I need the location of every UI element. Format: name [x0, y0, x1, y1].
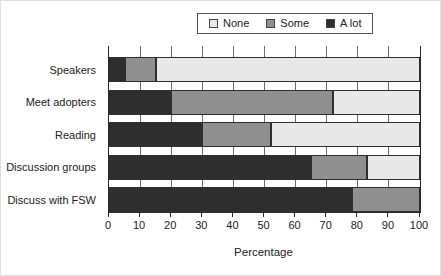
- bar-row: [109, 122, 420, 147]
- bar-segment-some: [171, 90, 333, 115]
- bar-segment-a-lot: [109, 155, 311, 180]
- x-tick-mark: [232, 213, 233, 217]
- x-tick-mark: [419, 213, 420, 217]
- category-label: Discussion groups: [6, 162, 96, 173]
- legend-label: A lot: [340, 18, 361, 29]
- x-tick-label: 50: [257, 220, 269, 231]
- x-tick-label: 90: [382, 220, 394, 231]
- x-tick-mark: [170, 213, 171, 217]
- legend: NoneSomeA lot: [197, 13, 373, 34]
- x-tick-mark: [294, 213, 295, 217]
- legend-label: None: [223, 18, 249, 29]
- bar-segment-a-lot: [109, 122, 202, 147]
- legend-item-some: Some: [266, 18, 309, 29]
- legend-item-none: None: [209, 18, 249, 29]
- category-axis-labels: SpeakersMeet adoptersReadingDiscussion g…: [1, 46, 102, 212]
- x-tick-label: 10: [133, 220, 145, 231]
- bar-row: [109, 155, 420, 180]
- x-tick-label: 80: [351, 220, 363, 231]
- bar-segment-none: [333, 90, 420, 115]
- x-tick-mark: [201, 213, 202, 217]
- bar-row: [109, 57, 420, 82]
- x-axis: 0102030405060708090100: [108, 213, 419, 239]
- bar-segment-none: [271, 122, 420, 147]
- x-tick-label: 40: [226, 220, 238, 231]
- legend-item-a-lot: A lot: [326, 18, 361, 29]
- x-tick-label: 0: [105, 220, 111, 231]
- x-axis-title: Percentage: [108, 247, 419, 259]
- bar-segment-a-lot: [109, 187, 352, 212]
- bar-segment-none: [156, 57, 420, 82]
- category-label: Reading: [55, 129, 96, 140]
- x-tick-mark: [325, 213, 326, 217]
- bar-segment-a-lot: [109, 90, 171, 115]
- x-tick-label: 60: [288, 220, 300, 231]
- plot-area: [108, 46, 421, 213]
- bar-segment-some: [202, 122, 270, 147]
- x-tick-mark: [108, 213, 109, 217]
- x-tick-label: 20: [164, 220, 176, 231]
- legend-swatch-icon: [326, 19, 335, 28]
- legend-swatch-icon: [209, 19, 218, 28]
- legend-label: Some: [280, 18, 309, 29]
- legend-swatch-icon: [266, 19, 275, 28]
- x-tick-label: 100: [410, 220, 428, 231]
- bar-row: [109, 90, 420, 115]
- x-tick-label: 70: [320, 220, 332, 231]
- category-label: Speakers: [50, 64, 96, 75]
- stacked-bar-chart: NoneSomeA lot SpeakersMeet adoptersReadi…: [0, 0, 441, 276]
- x-tick-mark: [263, 213, 264, 217]
- bar-segment-some: [352, 187, 420, 212]
- x-tick-mark: [356, 213, 357, 217]
- category-label: Discuss with FSW: [7, 194, 96, 205]
- bar-segment-a-lot: [109, 57, 125, 82]
- category-label: Meet adopters: [26, 97, 96, 108]
- x-tick-mark: [387, 213, 388, 217]
- x-tick-mark: [139, 213, 140, 217]
- x-tick-label: 30: [195, 220, 207, 231]
- bar-row: [109, 187, 420, 212]
- bar-segment-none: [367, 155, 420, 180]
- bar-segment-some: [125, 57, 156, 82]
- bar-segment-some: [311, 155, 367, 180]
